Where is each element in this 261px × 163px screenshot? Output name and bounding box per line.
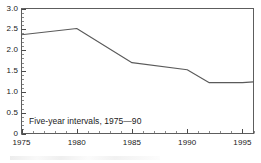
data-series-line [22,29,254,83]
y-axis-tick-label: 2.0 [1,46,18,54]
x-axis-tick-labels: 19751980198519901995 [0,138,261,152]
y-axis-tick-label: 1.5 [1,67,18,75]
x-axis-tick-label: 1975 [2,138,42,147]
line-chart-figure: 00.51.01.52.02.53.0 19751980198519901995… [0,0,261,163]
chart-annotation: Five-year intervals, 1975—90 [29,116,141,126]
y-axis-tick-label: 0 [1,130,18,138]
y-axis-major-ticks [22,10,27,135]
x-axis-tick-label: 1990 [167,138,207,147]
x-axis-tick-label: 1985 [112,138,152,147]
x-axis-tick-label: 1980 [57,138,97,147]
scan-artifact [10,156,160,160]
y-axis-tick-label: 2.5 [1,25,18,33]
y-axis-tick-label: 0.5 [1,109,18,117]
x-axis-minor-ticks [23,131,255,134]
y-axis-tick-label: 1.0 [1,88,18,96]
y-axis-tick-label: 3.0 [1,5,18,13]
x-axis-tick-label: 1995 [222,138,261,147]
